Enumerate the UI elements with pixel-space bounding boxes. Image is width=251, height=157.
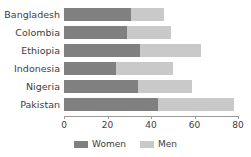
category-label-ethiopia: Ethiopia bbox=[0, 44, 60, 57]
x-axis-tick bbox=[195, 116, 196, 119]
bar-segment-men[interactable] bbox=[140, 44, 201, 57]
bar-segment-men[interactable] bbox=[127, 26, 171, 39]
bar-row bbox=[64, 62, 238, 75]
bar-segment-women[interactable] bbox=[64, 98, 158, 111]
legend-swatch-women bbox=[74, 141, 88, 148]
bar-segment-men[interactable] bbox=[158, 98, 234, 111]
legend-item-women[interactable]: Women bbox=[74, 140, 126, 149]
x-axis-tick-label: 40 bbox=[139, 120, 163, 130]
bar-row bbox=[64, 44, 238, 57]
category-label-indonesia: Indonesia bbox=[0, 62, 60, 75]
bar-segment-men[interactable] bbox=[131, 8, 164, 21]
x-axis-tick-label: 60 bbox=[183, 120, 207, 130]
legend-item-men[interactable]: Men bbox=[140, 140, 177, 149]
bar-row bbox=[64, 80, 238, 93]
bar-segment-women[interactable] bbox=[64, 80, 138, 93]
bar-segment-women[interactable] bbox=[64, 26, 127, 39]
x-axis-tick bbox=[108, 116, 109, 119]
bar-segment-men[interactable] bbox=[138, 80, 192, 93]
bar-segment-men[interactable] bbox=[116, 62, 173, 75]
legend-swatch-men bbox=[140, 141, 154, 148]
category-label-nigeria: Nigeria bbox=[0, 80, 60, 93]
bar-segment-women[interactable] bbox=[64, 8, 131, 21]
category-axis: Bangladesh Colombia Ethiopia Indonesia N… bbox=[0, 7, 60, 115]
x-axis-tick bbox=[238, 116, 239, 119]
bar-row bbox=[64, 98, 238, 111]
stacked-bar-chart: Bangladesh Colombia Ethiopia Indonesia N… bbox=[0, 0, 251, 157]
x-axis-tick-label: 0 bbox=[52, 120, 76, 130]
x-axis-tick bbox=[151, 116, 152, 119]
x-axis-tick bbox=[64, 116, 65, 119]
category-label-bangladesh: Bangladesh bbox=[0, 8, 60, 21]
chart-legend: Women Men bbox=[0, 140, 251, 149]
plot-area bbox=[64, 7, 238, 115]
category-label-colombia: Colombia bbox=[0, 26, 60, 39]
bar-segment-women[interactable] bbox=[64, 44, 140, 57]
legend-label-men: Men bbox=[158, 140, 177, 149]
x-axis-tick-label: 80 bbox=[226, 120, 250, 130]
bar-segment-women[interactable] bbox=[64, 62, 116, 75]
bar-row bbox=[64, 8, 238, 21]
category-label-pakistan: Pakistan bbox=[0, 98, 60, 111]
legend-label-women: Women bbox=[92, 140, 126, 149]
x-axis-tick-label: 20 bbox=[96, 120, 120, 130]
bar-row bbox=[64, 26, 238, 39]
